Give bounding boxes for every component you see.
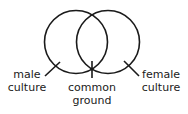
male-label-line2: culture [6,81,48,94]
male-label-line1: male [6,68,48,81]
common-label-line2: ground [66,94,118,107]
intersection-dot [90,67,93,70]
female-label-line1: female [138,68,184,81]
common-ground-label: common ground [66,81,118,107]
common-label-line1: common [66,81,118,94]
male-culture-label: male culture [6,68,48,94]
female-label-line2: culture [138,81,184,94]
female-culture-label: female culture [138,68,184,94]
